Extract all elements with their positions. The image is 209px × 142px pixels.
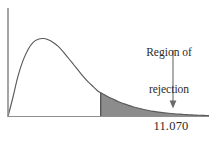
chi-square-rejection-region-figure: Region of rejection 11.070 — [0, 0, 209, 142]
rejection-region-annotation: Region of rejection — [132, 21, 206, 120]
critical-value-label: 11.070 — [140, 120, 202, 134]
annotation-line-2: rejection — [132, 83, 206, 95]
annotation-line-1: Region of — [132, 46, 206, 58]
